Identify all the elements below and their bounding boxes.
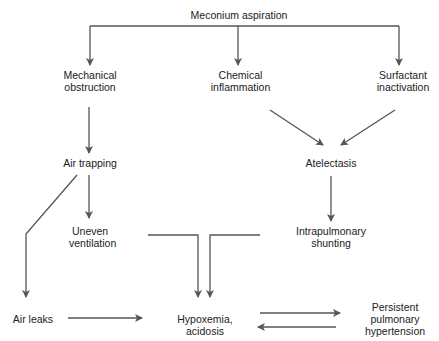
node-label: Uneven (58, 225, 128, 237)
node-label: Hypoxemia, (170, 313, 240, 325)
node-intrapulmonary-shunting: Intrapulmonary shunting (291, 225, 371, 249)
node-persistent-pulmonary-hypertension: Persistent pulmonary hypertension (355, 301, 435, 337)
node-label: Meconium aspiration (191, 9, 288, 21)
node-label: Surfactant (368, 69, 438, 81)
node-label: ventilation (58, 237, 128, 249)
node-meconium-aspiration: Meconium aspiration (189, 9, 289, 21)
node-label: Persistent (355, 301, 435, 313)
node-uneven-ventilation: Uneven ventilation (58, 225, 128, 249)
node-surfactant-inactivation: Surfactant inactivation (368, 69, 438, 93)
node-label: Atelectasis (296, 157, 366, 169)
node-label: pulmonary (355, 313, 435, 325)
node-label: Mechanical (55, 69, 125, 81)
node-air-leaks: Air leaks (8, 313, 58, 325)
edge-intrapulmonary-hypoxemia (210, 235, 260, 297)
node-label: inflammation (203, 81, 278, 93)
node-chemical-inflammation: Chemical inflammation (203, 69, 278, 93)
node-air-trapping: Air trapping (55, 157, 125, 169)
node-hypoxemia-acidosis: Hypoxemia, acidosis (170, 313, 240, 337)
node-label: Air trapping (55, 157, 125, 169)
node-atelectasis: Atelectasis (296, 157, 366, 169)
node-label: inactivation (368, 81, 438, 93)
node-label: Chemical (203, 69, 278, 81)
edge-surfactant-atelectasis (341, 110, 395, 145)
edge-chemical-atelectasis (270, 110, 323, 145)
node-label: shunting (291, 237, 371, 249)
flow-arrows (0, 0, 439, 341)
node-label: Intrapulmonary (291, 225, 371, 237)
edge-uneven-hypoxemia (148, 235, 198, 297)
node-mechanical-obstruction: Mechanical obstruction (55, 69, 125, 93)
node-label: acidosis (170, 325, 240, 337)
node-label: Air leaks (8, 313, 58, 325)
node-label: hypertension (355, 325, 435, 337)
node-label: obstruction (55, 81, 125, 93)
